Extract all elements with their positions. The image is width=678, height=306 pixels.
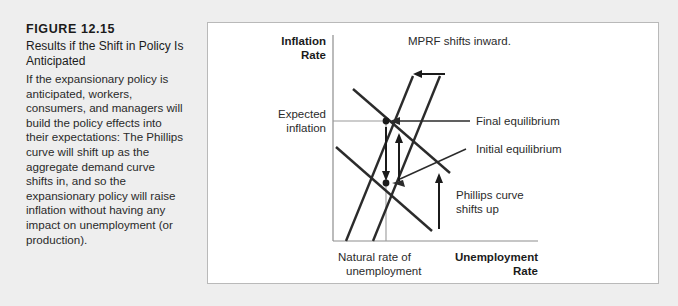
x-tick-label-line2: unemployment <box>346 265 422 277</box>
annotation-mprf-shift: MPRF shifts inward. <box>408 35 511 47</box>
y-tick-label-line1: Expected <box>278 108 326 120</box>
phillips-curve-diagram: Inflation Rate Unemployment Rate Expecte… <box>208 23 658 283</box>
phillips-up-arrow-right <box>435 173 443 229</box>
y-axis-title-line1: Inflation <box>281 35 326 47</box>
final-equilibrium-leader <box>390 117 470 125</box>
y-tick-label-line2: inflation <box>286 122 326 134</box>
figure-caption-body: If the expansionary policy is anticipate… <box>26 72 184 247</box>
annotation-phillips-shift-line2: shifts up <box>456 203 499 215</box>
x-axis-title-line2: Rate <box>513 265 538 277</box>
figure-title: Results if the Shift in Policy Is Antici… <box>26 39 184 68</box>
y-axis-title-line2: Rate <box>301 49 326 61</box>
x-tick-label-line1: Natural rate of <box>338 251 412 263</box>
annotation-phillips-shift-line1: Phillips curve <box>456 189 524 201</box>
diagram-panel: Inflation Rate Unemployment Rate Expecte… <box>207 22 659 284</box>
phillips-up-arrow-left <box>395 133 403 181</box>
phillips-initial-curve <box>336 147 432 231</box>
mprf-final-curve <box>346 76 413 241</box>
mprf-initial-curve <box>373 76 440 241</box>
x-axis-title-line1: Unemployment <box>455 251 538 263</box>
final-equilibrium-dot <box>383 118 390 125</box>
figure-root: FIGURE 12.15 Results if the Shift in Pol… <box>0 0 678 306</box>
annotation-initial-equilibrium: Initial equilibrium <box>476 143 562 155</box>
figure-number: FIGURE 12.15 <box>26 22 184 36</box>
annotation-final-equilibrium: Final equilibrium <box>476 115 560 127</box>
caption-column: FIGURE 12.15 Results if the Shift in Pol… <box>26 22 184 284</box>
